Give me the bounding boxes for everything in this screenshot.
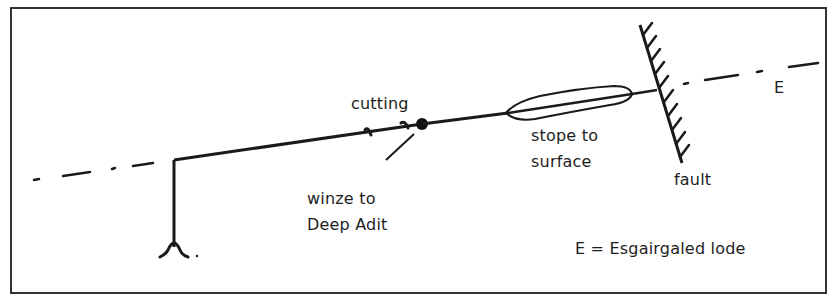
level-line-main (174, 124, 422, 160)
winze-leader-line (386, 134, 414, 160)
stope-label-line1: stope to (531, 126, 598, 146)
lode-line-west-projected (34, 163, 153, 180)
lode-marker-label: E (774, 78, 784, 98)
lode-line-east-projected (684, 63, 818, 84)
diagram-canvas (0, 0, 831, 305)
cutting-label: cutting (351, 94, 409, 114)
mine-plan-diagram: cutting winze to Deep Adit stope to surf… (0, 0, 831, 305)
stope-label-line2: surface (531, 152, 592, 172)
portal-dot (196, 255, 198, 257)
level-line-east (422, 113, 508, 124)
fault-line (640, 25, 682, 163)
legend-label: E = Esgairgaled lode (575, 239, 746, 259)
lode-line-to-fault (632, 90, 657, 94)
winze-label-line2: Deep Adit (307, 215, 388, 235)
fault-label: fault (674, 170, 711, 190)
winze-label-line1: winze to (307, 189, 376, 209)
